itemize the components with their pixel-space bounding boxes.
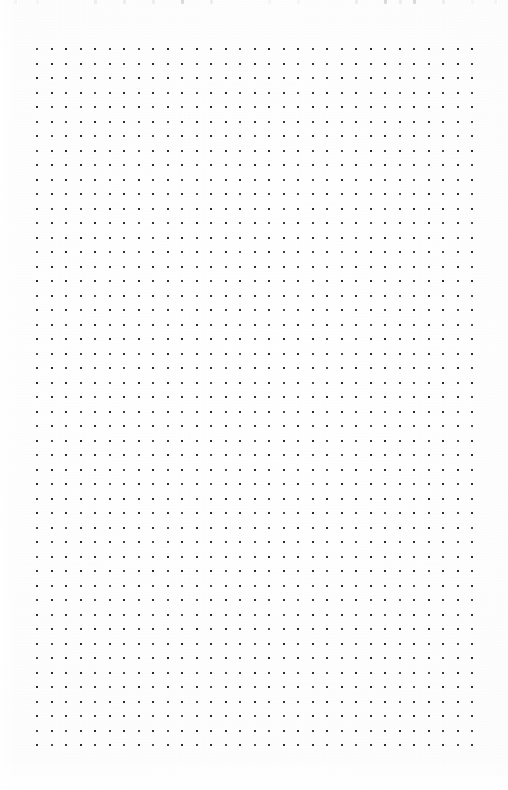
paper-background [0, 0, 508, 790]
notebook-page [0, 0, 508, 790]
